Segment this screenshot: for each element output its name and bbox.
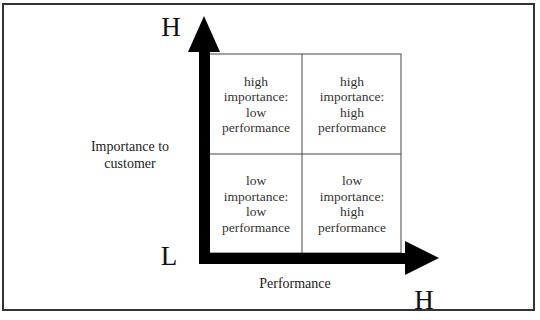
y-axis-low-marker: L <box>156 243 182 270</box>
quadrant-top-left-text: high importance: low performance <box>222 74 290 136</box>
quadrant-bottom-left: low importance: low performance <box>210 155 302 253</box>
y-axis-high-marker: H <box>158 14 184 41</box>
quadrant-bottom-right-text: low importance: high performance <box>318 173 386 235</box>
quadrant-top-right-text: high importance: high performance <box>318 74 386 136</box>
quadrant-bottom-right: low importance: high performance <box>303 155 401 253</box>
x-axis-high-marker: H <box>410 287 438 314</box>
y-axis-label: Importance to customer <box>60 138 200 172</box>
quadrant-top-left: high importance: low performance <box>210 55 302 154</box>
x-axis-label: Performance <box>240 275 350 292</box>
quadrant-top-right: high importance: high performance <box>303 55 401 154</box>
quadrant-bottom-left-text: low importance: low performance <box>222 173 290 235</box>
